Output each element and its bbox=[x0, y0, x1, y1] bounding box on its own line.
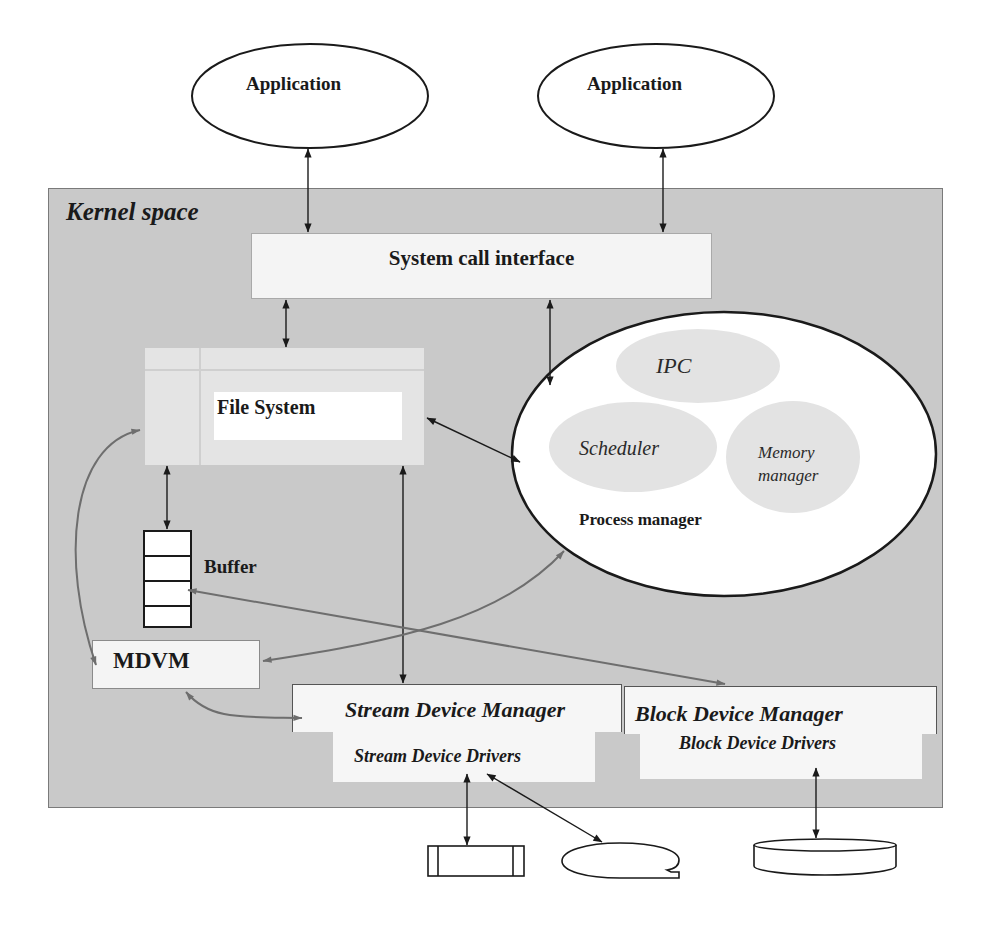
tape-device-icon[interactable] bbox=[562, 843, 679, 878]
arrow-mdvm-stream-manager bbox=[186, 692, 302, 718]
arrow-mdvm-process-manager bbox=[263, 551, 564, 661]
arrow-buffer-block-manager bbox=[188, 590, 725, 684]
arrow-stream-drivers-tape bbox=[487, 774, 602, 842]
arrow-filesystem-mdvm bbox=[76, 430, 140, 665]
connections-layer bbox=[0, 0, 984, 925]
terminal-device-icon[interactable] bbox=[428, 846, 524, 876]
arrow-filesystem-process-manager bbox=[427, 418, 520, 462]
disk-device-icon[interactable] bbox=[754, 839, 896, 875]
